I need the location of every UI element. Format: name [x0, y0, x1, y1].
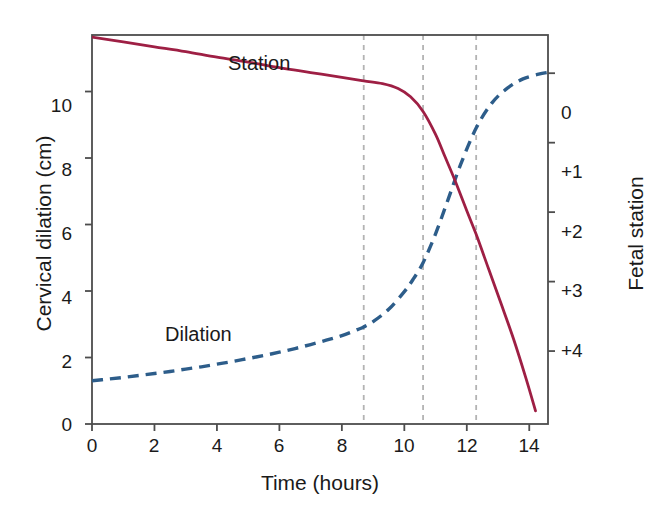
- y-tick-2: 2: [42, 352, 72, 371]
- y2-tick-plus3: +3: [561, 281, 597, 300]
- partogram-figure: 10 8 6 4 2 0 0 +1 +2 +3 +4 0 2 4 6 8 10 …: [0, 0, 646, 515]
- y-tick-0: 0: [42, 415, 72, 434]
- reference-lines-group: [364, 35, 476, 424]
- x-tick-6: 6: [265, 436, 293, 455]
- y-axis-title: Cervical dilation (cm): [33, 129, 54, 339]
- y2-tick-plus4: +4: [561, 341, 597, 360]
- station-series-label: Station: [228, 53, 290, 73]
- x-axis-title: Time (hours): [230, 472, 410, 493]
- axis-frame-group: [92, 35, 548, 424]
- x-tick-0: 0: [78, 436, 106, 455]
- x-tick-14: 14: [515, 436, 543, 455]
- x-tick-4: 4: [203, 436, 231, 455]
- y2-tick-plus1: +1: [561, 162, 597, 181]
- axis-ticks-group: [85, 73, 555, 431]
- y2-tick-0: 0: [561, 103, 597, 122]
- data-series-group: [92, 37, 548, 411]
- y2-tick-plus2: +2: [561, 222, 597, 241]
- x-tick-12: 12: [453, 436, 481, 455]
- x-tick-8: 8: [328, 436, 356, 455]
- series-line-dilation: [92, 72, 548, 381]
- series-line-station: [92, 37, 536, 411]
- dilation-series-label: Dilation: [165, 324, 232, 344]
- y2-axis-title: Fetal station: [625, 129, 646, 339]
- y-tick-10: 10: [42, 96, 72, 115]
- plot-frame: [92, 35, 548, 424]
- x-tick-2: 2: [140, 436, 168, 455]
- x-tick-10: 10: [390, 436, 418, 455]
